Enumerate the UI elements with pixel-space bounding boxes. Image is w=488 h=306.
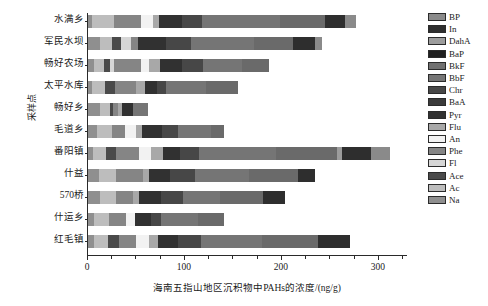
bar-segment: [242, 59, 269, 72]
bar-segment: [131, 37, 139, 50]
plot-area: [87, 13, 408, 255]
legend-item[interactable]: DahA: [428, 35, 486, 47]
legend-label: BbF: [449, 73, 465, 83]
bar-segment: [151, 147, 163, 160]
bar-segment: [104, 59, 111, 72]
y-axis-tick-label: 番阳镇: [18, 146, 84, 157]
y-axis-tick-label: 570桥: [18, 190, 84, 201]
bar-segment: [151, 213, 161, 226]
legend-item[interactable]: Fl: [428, 157, 486, 169]
bar-segment: [100, 37, 113, 50]
legend-label: An: [449, 134, 460, 144]
bar-segment: [201, 235, 262, 248]
x-axis-minor-tick: [111, 256, 112, 259]
x-axis-minor-tick: [135, 256, 136, 259]
y-axis-tick: [85, 43, 88, 44]
legend-item[interactable]: Ac: [428, 182, 486, 194]
bar-segment: [112, 125, 125, 138]
bar-segment: [114, 59, 141, 72]
legend-item[interactable]: Na: [428, 194, 486, 206]
y-axis-tick: [85, 131, 88, 132]
bar-segment: [88, 169, 99, 182]
bar-segment: [88, 103, 100, 116]
stacked-bar-chart: 采样点 水满乡军民水坝畅好农场太平水库畅好乡毛道乡番阳镇什益570桥什运乡红毛镇…: [0, 0, 488, 306]
bar-segment: [136, 81, 145, 94]
bar-segment: [166, 81, 207, 94]
bar-segment: [141, 15, 153, 28]
legend-item[interactable]: Flu: [428, 121, 486, 133]
x-axis-minor-tick: [305, 256, 306, 259]
legend-item[interactable]: An: [428, 133, 486, 145]
bar-segment: [157, 81, 166, 94]
x-axis-tick-label: 0: [67, 262, 107, 273]
bar-segment: [149, 169, 170, 182]
x-axis-minor-tick: [329, 256, 330, 259]
bar-segment: [195, 169, 249, 182]
bar-segment: [141, 59, 149, 72]
legend-item[interactable]: BaP: [428, 48, 486, 60]
y-axis-tick: [85, 65, 88, 66]
legend-swatch: [428, 196, 446, 204]
legend-label: BaP: [449, 49, 464, 59]
bar-segment: [92, 15, 114, 28]
legend-swatch: [428, 98, 446, 106]
bar-segment: [126, 213, 135, 226]
bar-segment: [88, 37, 100, 50]
legend-item[interactable]: In: [428, 23, 486, 35]
bar-row: [88, 213, 224, 226]
bar-row: [88, 147, 390, 160]
bar-segment: [116, 147, 139, 160]
bar-segment: [133, 191, 140, 204]
y-axis-tick-label: 畅好农场: [18, 58, 84, 69]
x-axis-minor-tick: [402, 256, 403, 259]
x-axis-minor-tick: [208, 256, 209, 259]
y-axis-tick-label: 什运乡: [18, 212, 84, 223]
bar-row: [88, 37, 322, 50]
legend-item[interactable]: Phe: [428, 145, 486, 157]
bar-segment: [114, 15, 141, 28]
bar-segment: [211, 125, 224, 138]
x-axis-minor-tick: [257, 256, 258, 259]
bar-segment: [206, 81, 238, 94]
bar-segment: [138, 37, 165, 50]
y-axis-tick: [85, 153, 88, 154]
bar-segment: [115, 81, 136, 94]
legend-swatch: [428, 159, 446, 167]
legend-item[interactable]: BP: [428, 11, 486, 23]
x-axis-tick: [87, 256, 88, 260]
legend-swatch: [428, 172, 446, 180]
legend-item[interactable]: Chr: [428, 84, 486, 96]
bar-segment: [202, 15, 280, 28]
y-axis-tick: [85, 21, 88, 22]
legend-swatch: [428, 111, 446, 119]
legend-label: BP: [449, 12, 460, 22]
bar-segment: [108, 235, 119, 248]
legend-swatch: [428, 147, 446, 155]
legend-item[interactable]: BkF: [428, 60, 486, 72]
bar-segment: [166, 37, 191, 50]
legend-label: BaA: [449, 97, 466, 107]
legend-item[interactable]: BaA: [428, 96, 486, 108]
legend-swatch: [428, 74, 446, 82]
legend-label: Chr: [449, 85, 463, 95]
x-axis-tick: [281, 256, 282, 260]
y-axis-tick-label: 水满乡: [18, 14, 84, 25]
bar-segment: [158, 235, 178, 248]
legend-swatch: [428, 135, 446, 143]
legend-swatch: [428, 86, 446, 94]
legend-item[interactable]: Pyr: [428, 109, 486, 121]
bar-segment: [199, 147, 276, 160]
legend-label: BkF: [449, 61, 465, 71]
bar-segment: [178, 125, 211, 138]
legend-label: Ac: [449, 183, 460, 193]
legend-item[interactable]: BbF: [428, 72, 486, 84]
x-axis-minor-tick: [160, 256, 161, 259]
y-axis-tick-label: 红毛镇: [18, 234, 84, 245]
bar-segment: [133, 103, 149, 116]
y-axis-tick-label: 太平水库: [18, 80, 84, 91]
bar-segment: [100, 103, 111, 116]
bar-segment: [342, 147, 371, 160]
bar-segment: [88, 125, 97, 138]
legend-item[interactable]: Ace: [428, 169, 486, 181]
x-axis-tick-label: 300: [358, 262, 398, 273]
